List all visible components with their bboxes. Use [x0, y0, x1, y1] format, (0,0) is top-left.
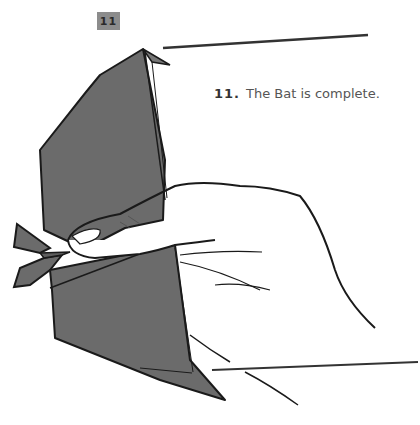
- origami-bat-illustration: [0, 0, 420, 425]
- pointer-line-top: [163, 35, 368, 48]
- upper-wing: [40, 49, 165, 246]
- pointer-line-bottom: [212, 362, 418, 370]
- lower-wing: [50, 245, 225, 400]
